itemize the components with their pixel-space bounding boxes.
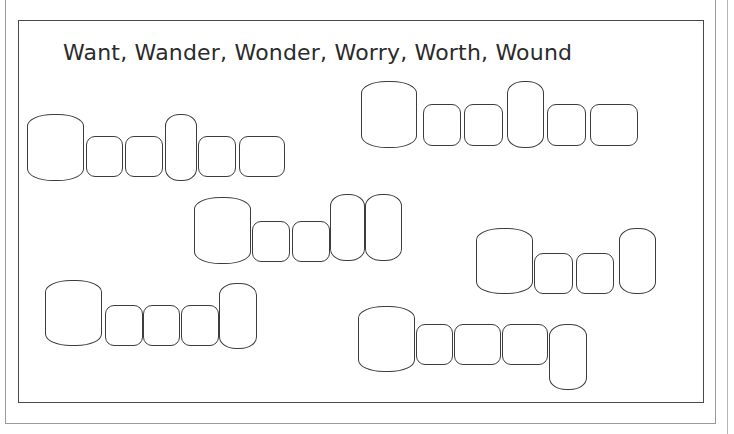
tall-letter-box[interactable]: [549, 324, 587, 390]
tall-letter-box[interactable]: [45, 280, 102, 346]
short-letter-box[interactable]: [143, 305, 180, 346]
tall-letter-box[interactable]: [219, 283, 257, 349]
short-letter-box[interactable]: [198, 136, 236, 177]
short-letter-box[interactable]: [416, 324, 453, 365]
short-letter-box[interactable]: [534, 253, 573, 294]
short-letter-box[interactable]: [125, 136, 163, 177]
short-letter-box[interactable]: [590, 104, 638, 146]
tall-letter-box[interactable]: [365, 194, 402, 261]
short-letter-box[interactable]: [105, 305, 143, 346]
tall-letter-box[interactable]: [507, 81, 544, 148]
short-letter-box[interactable]: [464, 104, 503, 146]
short-letter-box[interactable]: [181, 305, 219, 346]
tall-letter-box[interactable]: [619, 228, 656, 294]
short-letter-box[interactable]: [454, 324, 501, 365]
tall-letter-box[interactable]: [358, 306, 415, 372]
short-letter-box[interactable]: [252, 221, 290, 262]
short-letter-box[interactable]: [239, 136, 285, 177]
tall-letter-box[interactable]: [194, 197, 251, 264]
tall-letter-box[interactable]: [27, 114, 84, 181]
word-list-title: Want, Wander, Wonder, Worry, Worth, Woun…: [63, 40, 572, 65]
tall-letter-box[interactable]: [165, 114, 197, 181]
tall-letter-box[interactable]: [361, 81, 417, 148]
short-letter-box[interactable]: [423, 104, 461, 146]
tall-letter-box[interactable]: [330, 194, 365, 261]
short-letter-box[interactable]: [86, 136, 123, 177]
tall-letter-box[interactable]: [476, 228, 533, 294]
short-letter-box[interactable]: [547, 104, 586, 146]
short-letter-box[interactable]: [576, 253, 614, 294]
page-edge-line: [727, 0, 728, 434]
short-letter-box[interactable]: [292, 221, 330, 262]
short-letter-box[interactable]: [502, 324, 548, 365]
